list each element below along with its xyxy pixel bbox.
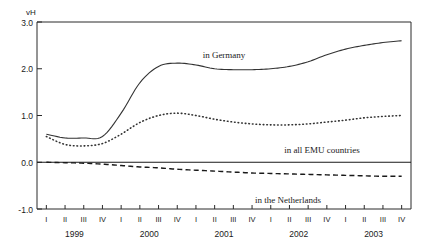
x-axis-year-labels: 19992000200120022003 xyxy=(65,229,383,239)
x-axis-year-label: 2002 xyxy=(289,229,308,239)
x-tick-label: I xyxy=(45,215,47,224)
x-axis-year-label: 2001 xyxy=(215,229,234,239)
x-tick-label: I xyxy=(270,215,272,224)
chart-container: vH 3.0 2.0 1.0 0.0 -1.0 IIIIIIIVIIIIIIIV… xyxy=(0,0,422,249)
x-axis-year-label: 2003 xyxy=(364,229,383,239)
x-tick-label: III xyxy=(380,215,386,224)
x-tick-label: I xyxy=(120,215,122,224)
series-line-emu xyxy=(46,113,401,146)
x-tick-label: II xyxy=(138,215,142,224)
x-tick-label: IV xyxy=(249,215,256,224)
x-tick-label: II xyxy=(63,215,67,224)
y-axis-unit-label: vH xyxy=(26,8,36,17)
y-tick-label: 3.0 xyxy=(21,18,33,28)
line-chart: vH 3.0 2.0 1.0 0.0 -1.0 IIIIIIIVIIIIIIIV… xyxy=(0,0,422,249)
annotation-netherlands: in the Netherlands xyxy=(255,195,321,205)
x-tick-label: III xyxy=(81,215,87,224)
x-tick-label: III xyxy=(305,215,311,224)
x-axis-year-label: 1999 xyxy=(65,229,84,239)
x-tick-label: III xyxy=(230,215,236,224)
y-tick-label: 1.0 xyxy=(21,111,33,121)
x-tick-label: II xyxy=(287,215,291,224)
x-axis-year-label: 2000 xyxy=(140,229,159,239)
annotation-germany: in Germany xyxy=(203,50,246,60)
annotation-emu: in all EMU countries xyxy=(284,145,360,155)
x-tick-label: II xyxy=(213,215,217,224)
x-axis-ticks xyxy=(46,205,401,209)
x-tick-label: IV xyxy=(323,215,330,224)
x-tick-label: I xyxy=(345,215,347,224)
series-line-netherlands xyxy=(46,162,401,176)
y-axis-ticks: 3.0 2.0 1.0 0.0 -1.0 xyxy=(18,18,42,215)
y-tick-label: 0.0 xyxy=(21,158,33,168)
y-tick-label: 2.0 xyxy=(21,64,33,74)
x-tick-label: IV xyxy=(174,215,181,224)
x-tick-label: II xyxy=(362,215,366,224)
x-axis-tick-labels: IIIIIIIVIIIIIIIVIIIIIIIVIIIIIIIVIIIIIIIV xyxy=(45,215,405,224)
x-tick-label: IV xyxy=(99,215,106,224)
y-tick-label: -1.0 xyxy=(18,205,33,215)
x-tick-label: IV xyxy=(398,215,405,224)
x-tick-label: I xyxy=(195,215,197,224)
x-tick-label: III xyxy=(155,215,161,224)
